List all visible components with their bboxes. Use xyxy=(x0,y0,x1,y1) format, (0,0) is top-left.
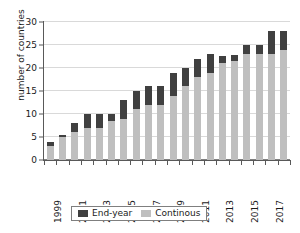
x-axis-tick-mark xyxy=(204,161,205,165)
bar-segment-continous[interactable] xyxy=(59,137,66,160)
bar-segment-end-year[interactable] xyxy=(170,73,177,96)
bar-segment-continous[interactable] xyxy=(145,105,152,160)
bar-group[interactable] xyxy=(170,22,177,160)
bar-segment-end-year[interactable] xyxy=(71,123,78,132)
bar-group[interactable] xyxy=(84,22,91,160)
bar-segment-end-year[interactable] xyxy=(108,114,115,121)
bar-segment-end-year[interactable] xyxy=(231,55,238,61)
x-axis-tick-mark xyxy=(253,161,254,165)
x-axis-tick-mark xyxy=(265,161,266,165)
bar-segment-end-year[interactable] xyxy=(133,91,140,109)
bar-segment-end-year[interactable] xyxy=(194,59,201,77)
x-axis-tick-mark xyxy=(229,161,230,165)
bar-segment-continous[interactable] xyxy=(96,128,103,160)
x-axis-tick-label: 1999 xyxy=(54,200,63,223)
bar-segment-end-year[interactable] xyxy=(219,56,226,64)
bar-segment-continous[interactable] xyxy=(133,109,140,160)
bar-group[interactable] xyxy=(47,22,54,160)
bar-segment-continous[interactable] xyxy=(256,54,263,160)
y-axis-tick-label: 25 xyxy=(26,41,37,50)
bar-group[interactable] xyxy=(256,22,263,160)
bar-segment-continous[interactable] xyxy=(157,105,164,160)
x-axis-tick-mark xyxy=(290,161,291,165)
bar-segment-end-year[interactable] xyxy=(120,100,127,118)
bar-group[interactable] xyxy=(157,22,164,160)
x-axis-tick-label: 2015 xyxy=(251,200,260,223)
y-axis-tick-label: 5 xyxy=(31,133,37,142)
y-axis-tick-label: 30 xyxy=(26,18,37,27)
y-axis-tick-label: 0 xyxy=(31,156,37,165)
bar-segment-continous[interactable] xyxy=(182,86,189,160)
legend-swatch-icon xyxy=(141,210,151,217)
bar-segment-end-year[interactable] xyxy=(84,114,91,128)
bar-segment-end-year[interactable] xyxy=(96,114,103,128)
x-axis-tick-mark xyxy=(69,161,70,165)
bar-segment-continous[interactable] xyxy=(170,96,177,160)
bar-segment-continous[interactable] xyxy=(47,146,54,160)
bar-group[interactable] xyxy=(243,22,250,160)
bar-segment-continous[interactable] xyxy=(84,128,91,160)
bar-segment-continous[interactable] xyxy=(108,121,115,160)
bar-segment-continous[interactable] xyxy=(71,132,78,160)
bar-group[interactable] xyxy=(194,22,201,160)
bar-group[interactable] xyxy=(71,22,78,160)
bar-segment-end-year[interactable] xyxy=(145,86,152,104)
bar-segment-end-year[interactable] xyxy=(47,142,54,147)
x-axis-tick-mark xyxy=(106,161,107,165)
bar-group[interactable] xyxy=(96,22,103,160)
x-axis-tick-mark xyxy=(56,161,57,165)
bar-group[interactable] xyxy=(280,22,287,160)
bar-group[interactable] xyxy=(182,22,189,160)
bar-group[interactable] xyxy=(59,22,66,160)
y-axis-tick-label: 15 xyxy=(26,87,37,96)
x-axis-tick-mark xyxy=(118,161,119,165)
x-axis-tick-mark xyxy=(44,161,45,165)
x-axis-tick-mark xyxy=(155,161,156,165)
chart-figure: number of countries 051015202530 1999200… xyxy=(0,0,300,233)
bar-segment-continous[interactable] xyxy=(243,54,250,160)
bar-group[interactable] xyxy=(120,22,127,160)
bar-segment-continous[interactable] xyxy=(231,61,238,160)
plot-area xyxy=(44,22,290,160)
x-axis-tick-mark xyxy=(216,161,217,165)
x-axis-tick-label: 2013 xyxy=(226,200,235,223)
bar-segment-end-year[interactable] xyxy=(182,68,189,86)
legend-item[interactable]: Continous xyxy=(141,209,200,218)
bar-group[interactable] xyxy=(207,22,214,160)
x-axis-tick-mark xyxy=(192,161,193,165)
bar-series-container xyxy=(44,22,290,160)
x-axis-tick-mark xyxy=(142,161,143,165)
legend-item[interactable]: End-year xyxy=(78,209,132,218)
bar-segment-end-year[interactable] xyxy=(59,135,66,137)
bar-group[interactable] xyxy=(133,22,140,160)
bar-segment-end-year[interactable] xyxy=(243,45,250,54)
x-axis-tick-mark xyxy=(130,161,131,165)
y-axis-tick-label: 10 xyxy=(26,110,37,119)
legend-label: Continous xyxy=(155,209,200,218)
bar-group[interactable] xyxy=(268,22,275,160)
bar-segment-end-year[interactable] xyxy=(280,31,287,49)
x-axis-tick-mark xyxy=(167,161,168,165)
x-axis-tick-label: 2017 xyxy=(276,200,285,223)
bar-segment-continous[interactable] xyxy=(268,54,275,160)
bar-segment-end-year[interactable] xyxy=(256,45,263,54)
bar-segment-end-year[interactable] xyxy=(268,31,275,54)
bar-segment-continous[interactable] xyxy=(120,119,127,160)
bar-segment-continous[interactable] xyxy=(280,50,287,160)
bar-segment-continous[interactable] xyxy=(194,77,201,160)
bar-group[interactable] xyxy=(231,22,238,160)
legend-label: End-year xyxy=(92,209,132,218)
chart-legend: End-yearContinous xyxy=(71,206,207,221)
x-axis-tick-mark xyxy=(93,161,94,165)
bar-group[interactable] xyxy=(108,22,115,160)
x-axis-tick-labels: 1999200120032005200720092011201320152017 xyxy=(44,166,290,202)
bar-segment-end-year[interactable] xyxy=(207,54,214,72)
bar-segment-continous[interactable] xyxy=(219,63,226,160)
y-axis-tick-label: 20 xyxy=(26,64,37,73)
bar-group[interactable] xyxy=(145,22,152,160)
x-axis-tick-mark xyxy=(241,161,242,165)
bar-group[interactable] xyxy=(219,22,226,160)
bar-segment-continous[interactable] xyxy=(207,73,214,160)
x-axis-tick-mark xyxy=(179,161,180,165)
bar-segment-end-year[interactable] xyxy=(157,86,164,104)
